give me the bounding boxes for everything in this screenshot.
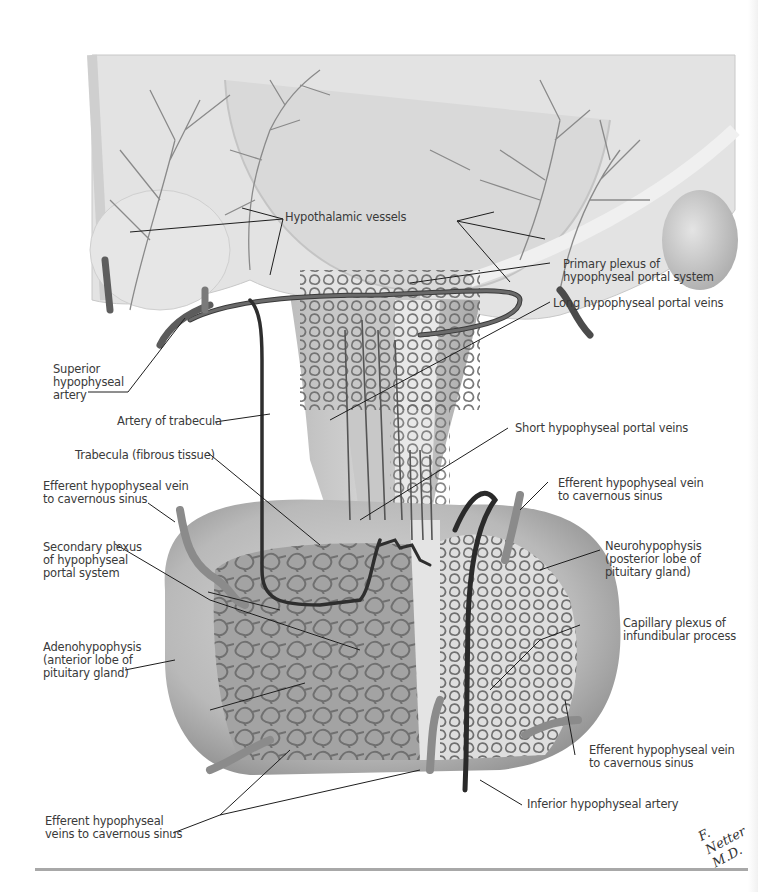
label-neurohypophysis: Neurohypophysis (posterior lobe of pitui… [605, 540, 701, 579]
label-capillary-plexus: Capillary plexus of infundibular process [623, 617, 736, 643]
label-short-portal-veins: Short hypophyseal portal veins [515, 422, 688, 435]
anatomical-illustration: Hypothalamic vessels Primary plexus of h… [0, 0, 758, 892]
bottom-divider [35, 868, 755, 871]
label-inferior-hypophyseal-artery: Inferior hypophyseal artery [527, 798, 678, 811]
label-secondary-plexus: Secondary plexus of hypophyseal portal s… [43, 541, 142, 580]
label-long-portal-veins: Long hypophyseal portal veins [553, 297, 723, 310]
page-edge-shadow [748, 0, 758, 892]
label-trabecula: Trabecula (fibrous tissue) [75, 449, 215, 462]
label-efferent-veins-bottom-left: Efferent hypophyseal veins to cavernous … [45, 815, 182, 841]
label-primary-plexus: Primary plexus of hypophyseal portal sys… [563, 258, 714, 284]
label-efferent-vein-lower-right: Efferent hypophyseal vein to cavernous s… [589, 744, 735, 770]
label-efferent-vein-upper-right: Efferent hypophyseal vein to cavernous s… [558, 477, 704, 503]
label-hypothalamic-vessels: Hypothalamic vessels [285, 211, 406, 224]
label-superior-hypophyseal-artery: Superior hypophyseal artery [53, 363, 124, 402]
label-adenohypophysis: Adenohypophysis (anterior lobe of pituit… [43, 641, 141, 680]
label-efferent-vein-upper-left: Efferent hypophyseal vein to cavernous s… [43, 480, 189, 506]
label-artery-of-trabecula: Artery of trabecula [117, 415, 222, 428]
